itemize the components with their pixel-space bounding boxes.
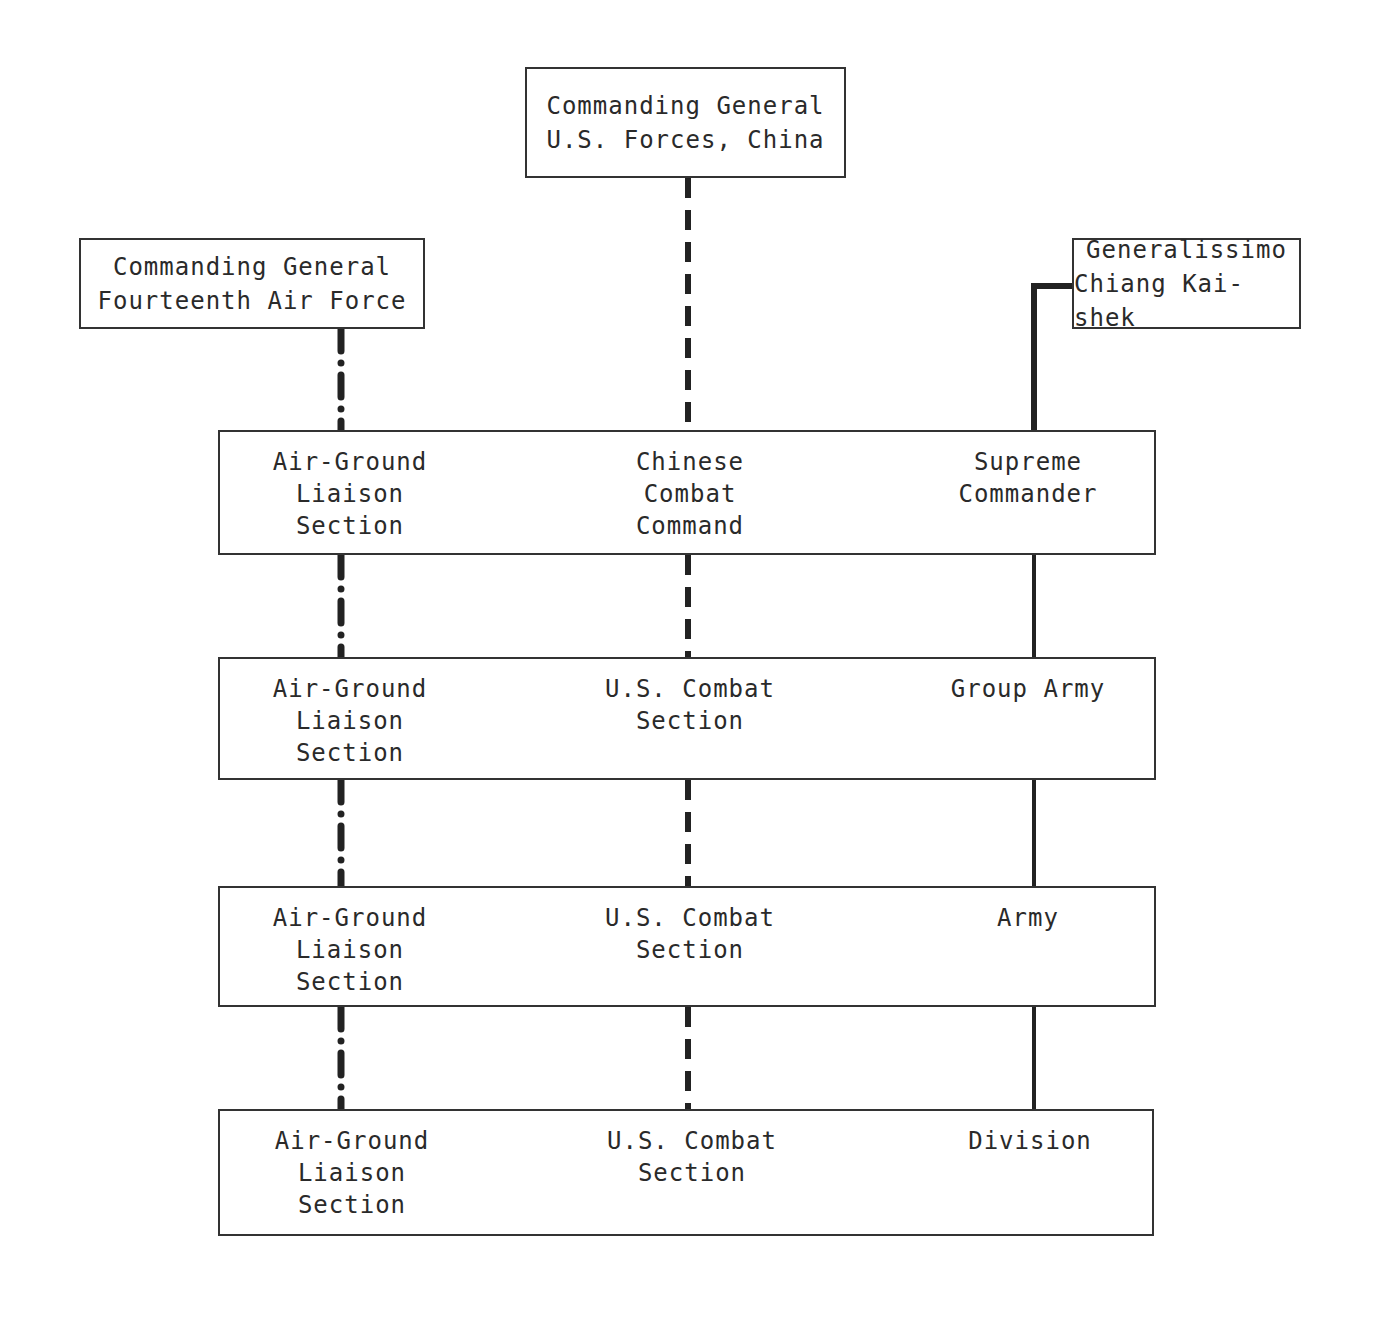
cell-line: U.S. Combat [542,1125,842,1157]
box-line: Commanding General [546,89,824,123]
cell-line: Air-Ground [200,673,500,705]
group-army-cell: Group Army [878,673,1178,705]
echelon-row-group-army: Air-Ground Liaison Section U.S. Combat S… [218,657,1156,780]
chinese-combat-command-cell: Chinese Combat Command [540,446,840,542]
air-ground-liaison-cell: Air-Ground Liaison Section [202,1125,502,1221]
cell-line: Army [878,902,1178,934]
air-ground-liaison-cell: Air-Ground Liaison Section [200,673,500,769]
cell-line: Supreme [878,446,1178,478]
cell-line: Command [540,510,840,542]
box-line: Commanding General [113,250,391,284]
cell-line: Liaison [200,934,500,966]
box-line: U.S. Forces, China [546,123,824,157]
fourteenth-air-force-box: Commanding General Fourteenth Air Force [79,238,425,329]
cell-line: Combat [540,478,840,510]
air-ground-liaison-cell: Air-Ground Liaison Section [200,446,500,542]
cell-line: Group Army [878,673,1178,705]
cell-line: Section [200,510,500,542]
echelon-row-supreme: Air-Ground Liaison Section Chinese Comba… [218,430,1156,555]
cell-line: Section [202,1189,502,1221]
box-line: Fourteenth Air Force [98,284,407,318]
us-combat-section-cell: U.S. Combat Section [540,902,840,966]
cell-line: Section [200,966,500,998]
cell-line: Liaison [202,1157,502,1189]
generalissimo-box: Generalissimo Chiang Kai-shek [1072,238,1301,329]
cell-line: Commander [878,478,1178,510]
cell-line: U.S. Combat [540,902,840,934]
cell-line: Liaison [200,705,500,737]
us-combat-section-cell: U.S. Combat Section [540,673,840,737]
division-cell: Division [880,1125,1180,1157]
cell-line: Section [542,1157,842,1189]
air-ground-liaison-cell: Air-Ground Liaison Section [200,902,500,998]
echelon-row-army: Air-Ground Liaison Section U.S. Combat S… [218,886,1156,1007]
cell-line: Liaison [200,478,500,510]
us-forces-china-box: Commanding General U.S. Forces, China [525,67,846,178]
cell-line: Chinese [540,446,840,478]
cell-line: Section [540,934,840,966]
cell-line: Air-Ground [200,446,500,478]
army-cell: Army [878,902,1178,934]
us-combat-section-cell: U.S. Combat Section [542,1125,842,1189]
cell-line: Section [200,737,500,769]
cell-line: U.S. Combat [540,673,840,705]
supreme-commander-cell: Supreme Commander [878,446,1178,510]
box-line: Chiang Kai-shek [1074,267,1299,335]
echelon-row-division: Air-Ground Liaison Section U.S. Combat S… [218,1109,1154,1236]
cell-line: Air-Ground [202,1125,502,1157]
box-line: Generalissimo [1086,233,1287,267]
cell-line: Division [880,1125,1180,1157]
cell-line: Section [540,705,840,737]
cell-line: Air-Ground [200,902,500,934]
